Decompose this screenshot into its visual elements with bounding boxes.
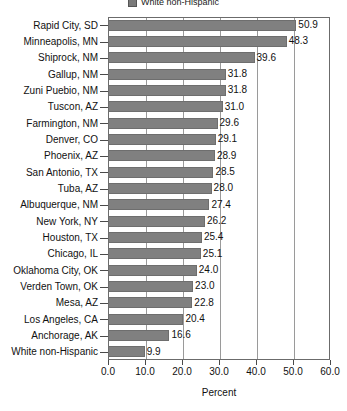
chart-legend: White non-Hispanic xyxy=(0,0,347,9)
x-axis-tick xyxy=(293,360,294,365)
x-axis-tick-label: 50.0 xyxy=(283,366,302,378)
legend-label: White non-Hispanic xyxy=(141,0,219,7)
x-axis-tick-label: 60.0 xyxy=(320,366,339,378)
bar[interactable] xyxy=(108,314,183,325)
y-axis-label: Farmington, NM xyxy=(26,115,98,131)
bar[interactable] xyxy=(108,101,223,112)
bar-row[interactable]: 29.1 xyxy=(108,131,330,147)
bar-value-label: 22.8 xyxy=(192,297,213,309)
bar-row[interactable]: 24.0 xyxy=(108,262,330,278)
y-axis-tick xyxy=(100,140,108,141)
legend-swatch-white-non-hispanic xyxy=(128,0,137,7)
x-axis-tick xyxy=(108,360,109,365)
y-axis-label: Chicago, IL xyxy=(47,246,98,262)
bar-row[interactable]: 27.4 xyxy=(108,197,330,213)
bar[interactable] xyxy=(108,232,202,243)
bar-row[interactable]: 25.1 xyxy=(108,246,330,262)
bar[interactable] xyxy=(108,69,226,80)
bar-row[interactable]: 31.8 xyxy=(108,66,330,82)
y-axis-tick xyxy=(100,189,108,190)
y-axis-tick xyxy=(100,42,108,43)
x-axis-tick-label: 20.0 xyxy=(172,366,191,378)
bar-value-label: 28.5 xyxy=(213,166,234,178)
bar-chart: White non-Hispanic Rapid City, SDMinneap… xyxy=(0,0,347,411)
bar-row[interactable]: 9.9 xyxy=(108,344,330,360)
y-axis-tick xyxy=(100,319,108,320)
bar-row[interactable]: 28.0 xyxy=(108,180,330,196)
bar-row[interactable]: 28.5 xyxy=(108,164,330,180)
bar-value-label: 28.0 xyxy=(212,182,233,194)
bar-row[interactable]: 48.3 xyxy=(108,33,330,49)
bar[interactable] xyxy=(108,265,197,276)
y-axis-tick xyxy=(100,336,108,337)
bar-value-label: 39.6 xyxy=(255,52,276,64)
y-axis-label: New York, NY xyxy=(36,213,98,229)
y-axis-tick xyxy=(100,205,108,206)
y-axis-label: Mesa, AZ xyxy=(56,295,98,311)
y-axis-label: Minneapolis, MN xyxy=(24,33,98,49)
y-axis-label: Denver, CO xyxy=(46,131,98,147)
bar-rows: 50.948.339.631.831.831.029.629.128.928.5… xyxy=(108,17,330,360)
x-axis-tick xyxy=(330,360,331,365)
bar-row[interactable]: 50.9 xyxy=(108,17,330,33)
bar-value-label: 26.2 xyxy=(205,215,226,227)
y-axis-label: Phoenix, AZ xyxy=(44,148,98,164)
bar[interactable] xyxy=(108,118,218,129)
y-axis-label: Shiprock, NM xyxy=(38,50,98,66)
bar-value-label: 25.4 xyxy=(202,231,223,243)
bar[interactable] xyxy=(108,346,145,357)
bar-row[interactable]: 39.6 xyxy=(108,50,330,66)
bar-value-label: 29.1 xyxy=(216,133,237,145)
bar-row[interactable]: 20.4 xyxy=(108,311,330,327)
bar[interactable] xyxy=(108,52,255,63)
x-axis-tick xyxy=(219,360,220,365)
bar-row[interactable]: 26.2 xyxy=(108,213,330,229)
bar-row[interactable]: 22.8 xyxy=(108,295,330,311)
bar[interactable] xyxy=(108,330,169,341)
bar-value-label: 50.9 xyxy=(296,19,317,31)
y-axis-label: Oklahoma City, OK xyxy=(13,262,98,278)
bar-row[interactable]: 29.6 xyxy=(108,115,330,131)
y-axis-tick xyxy=(100,172,108,173)
y-axis-tick xyxy=(100,238,108,239)
y-axis-label: Verden Town, OK xyxy=(20,278,98,294)
y-axis-tick xyxy=(100,123,108,124)
y-axis-tick xyxy=(100,58,108,59)
bar-row[interactable]: 31.8 xyxy=(108,82,330,98)
bar-row[interactable]: 28.9 xyxy=(108,148,330,164)
bar[interactable] xyxy=(108,134,216,145)
x-axis-tick-label: 30.0 xyxy=(209,366,228,378)
y-axis-tick xyxy=(100,107,108,108)
bar-value-label: 48.3 xyxy=(287,35,308,47)
bar-value-label: 28.9 xyxy=(215,150,236,162)
bar-value-label: 23.0 xyxy=(193,280,214,292)
y-axis-labels: Rapid City, SDMinneapolis, MNShiprock, N… xyxy=(0,17,108,360)
bar-value-label: 16.6 xyxy=(169,329,190,341)
x-axis-tick xyxy=(256,360,257,365)
x-axis-tick xyxy=(182,360,183,365)
bar-row[interactable]: 31.0 xyxy=(108,99,330,115)
bar[interactable] xyxy=(108,36,287,47)
bar-value-label: 24.0 xyxy=(197,264,218,276)
bar-value-label: 31.8 xyxy=(226,84,247,96)
y-axis-label: Zuni Puebio, NM xyxy=(24,82,98,98)
bar[interactable] xyxy=(108,20,296,31)
bar[interactable] xyxy=(108,281,193,292)
bar-value-label: 31.0 xyxy=(223,101,244,113)
bar[interactable] xyxy=(108,216,205,227)
bar-row[interactable]: 16.6 xyxy=(108,327,330,343)
y-axis-label: Tuscon, AZ xyxy=(48,99,98,115)
bar[interactable] xyxy=(108,85,226,96)
bar-row[interactable]: 23.0 xyxy=(108,278,330,294)
bar-value-label: 25.1 xyxy=(201,248,222,260)
y-axis-tick xyxy=(100,303,108,304)
bar-row[interactable]: 25.4 xyxy=(108,229,330,245)
bar[interactable] xyxy=(108,199,209,210)
bar[interactable] xyxy=(108,167,213,178)
bar[interactable] xyxy=(108,183,212,194)
bar[interactable] xyxy=(108,248,201,259)
bar[interactable] xyxy=(108,150,215,161)
y-axis-tick xyxy=(100,25,108,26)
y-axis-label: Rapid City, SD xyxy=(33,17,98,33)
bar[interactable] xyxy=(108,297,192,308)
